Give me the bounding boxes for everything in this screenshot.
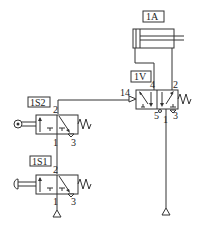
push-button-icon [14,179,18,189]
supply-triangle-icon [53,210,61,217]
pilot-signal-line [58,100,129,114]
spring-icon [78,179,91,189]
port-2-label: 2 [53,164,58,175]
port-14-label: 14 [120,87,130,98]
cylinder-body [133,29,174,48]
port-3-label: 3 [71,196,76,207]
port-2-label: 2 [173,79,178,90]
label-1s1: 1S1 [32,156,48,167]
spring-icon [178,94,191,104]
spring-icon [78,119,91,129]
label-1v: 1V [134,71,147,82]
supply-triangle-icon [162,208,170,215]
pilot-triangle-icon [129,96,136,102]
label-1s2: 1S2 [30,97,46,108]
port-4-label: 4 [150,79,155,90]
port-3-label: 3 [71,137,76,148]
pneumatic-circuit-diagram: 1A 1V 14 4 2 5 1 3 [0,0,206,228]
valve-1s2: 1S2 2 1 3 [14,97,91,148]
label-1a: 1A [146,11,159,22]
port-2-label: 2 [53,104,58,115]
valve-1s1: 1S1 2 1 3 [14,156,91,207]
cylinder-1a: 1A [133,11,184,48]
valve-1v: 1V 14 4 2 5 1 3 [120,71,191,125]
